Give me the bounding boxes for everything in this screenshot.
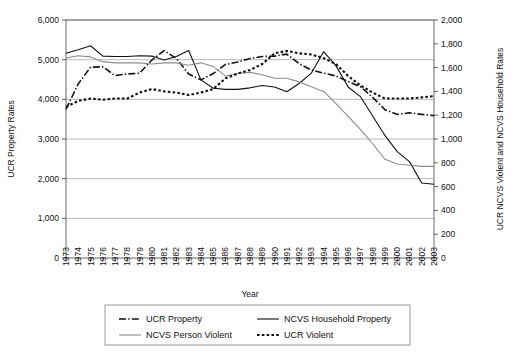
right-tick-label-1800: 1,800	[441, 39, 463, 49]
dual-axis-line-chart: 01,0002,0003,0004,0005,0006,000020040060…	[0, 0, 515, 352]
x-tick-label-1996: 1996	[343, 247, 353, 266]
x-tick-label-1993: 1993	[306, 247, 316, 266]
x-tick-label-1985: 1985	[208, 247, 218, 266]
left-tick-label-0: 0	[54, 253, 59, 263]
right-tick-label-400: 400	[441, 205, 455, 215]
x-tick-label-1980: 1980	[147, 247, 157, 266]
x-tick-label-1994: 1994	[319, 247, 329, 266]
series-line-ucr-property	[66, 51, 434, 116]
x-tick-label-1990: 1990	[270, 247, 280, 266]
right-tick-label-0: 0	[441, 253, 446, 263]
x-tick-label-1978: 1978	[122, 247, 132, 266]
x-tick-label-2002: 2002	[417, 247, 427, 266]
x-tick-label-2000: 2000	[392, 247, 402, 266]
x-tick-label-1998: 1998	[368, 247, 378, 266]
left-tick-label-5000: 5,000	[38, 55, 60, 65]
x-tick-label-1992: 1992	[294, 247, 304, 266]
y-axis-title: UCR Property Rates	[6, 100, 16, 177]
x-tick-label-1982: 1982	[171, 247, 181, 266]
right-tick-label-1600: 1,600	[441, 63, 463, 73]
x-tick-label-1973: 1973	[61, 247, 71, 266]
chart-container: 01,0002,0003,0004,0005,0006,000020040060…	[0, 0, 515, 352]
x-tick-label-1981: 1981	[159, 247, 169, 266]
x-tick-label-2003: 2003	[429, 247, 439, 266]
right-tick-label-200: 200	[441, 229, 455, 239]
x-axis-title: Year	[241, 289, 258, 299]
right-tick-label-600: 600	[441, 182, 455, 192]
x-tick-label-1995: 1995	[331, 247, 341, 266]
x-tick-label-1984: 1984	[196, 247, 206, 266]
legend-label-3: UCR Violent	[284, 330, 334, 340]
right-tick-label-1400: 1,400	[441, 86, 463, 96]
x-tick-label-1988: 1988	[245, 247, 255, 266]
x-tick-label-1977: 1977	[110, 247, 120, 266]
left-tick-label-6000: 6,000	[38, 15, 60, 25]
left-tick-label-4000: 4,000	[38, 94, 60, 104]
x-tick-label-1983: 1983	[184, 247, 194, 266]
legend-label-0: UCR Property	[146, 314, 203, 324]
right-tick-label-1200: 1,200	[441, 110, 463, 120]
legend-label-2: NCVS Person Violent	[146, 330, 232, 340]
x-tick-label-2001: 2001	[404, 247, 414, 266]
x-tick-label-1975: 1975	[86, 247, 96, 266]
x-tick-label-1986: 1986	[220, 247, 230, 266]
left-tick-label-1000: 1,000	[38, 213, 60, 223]
x-tick-label-1991: 1991	[282, 247, 292, 266]
x-tick-label-1974: 1974	[73, 247, 83, 266]
x-tick-label-1997: 1997	[355, 247, 365, 266]
right-tick-label-1000: 1,000	[441, 134, 463, 144]
y2-axis-title: UCR NCVS Violent and NCVS Household Rate…	[495, 48, 505, 231]
left-tick-label-2000: 2,000	[38, 174, 60, 184]
right-tick-label-2000: 2,000	[441, 15, 463, 25]
legend-label-1: NCVS Household Property	[284, 314, 392, 324]
right-tick-label-800: 800	[441, 158, 455, 168]
x-tick-label-1999: 1999	[380, 247, 390, 266]
left-tick-label-3000: 3,000	[38, 134, 60, 144]
series-line-ncvs-household-property	[66, 46, 434, 184]
x-tick-label-1976: 1976	[98, 247, 108, 266]
x-tick-label-1987: 1987	[233, 247, 243, 266]
x-tick-label-1979: 1979	[135, 247, 145, 266]
x-tick-label-1989: 1989	[257, 247, 267, 266]
series-line-ncvs-person-violent	[66, 56, 434, 167]
